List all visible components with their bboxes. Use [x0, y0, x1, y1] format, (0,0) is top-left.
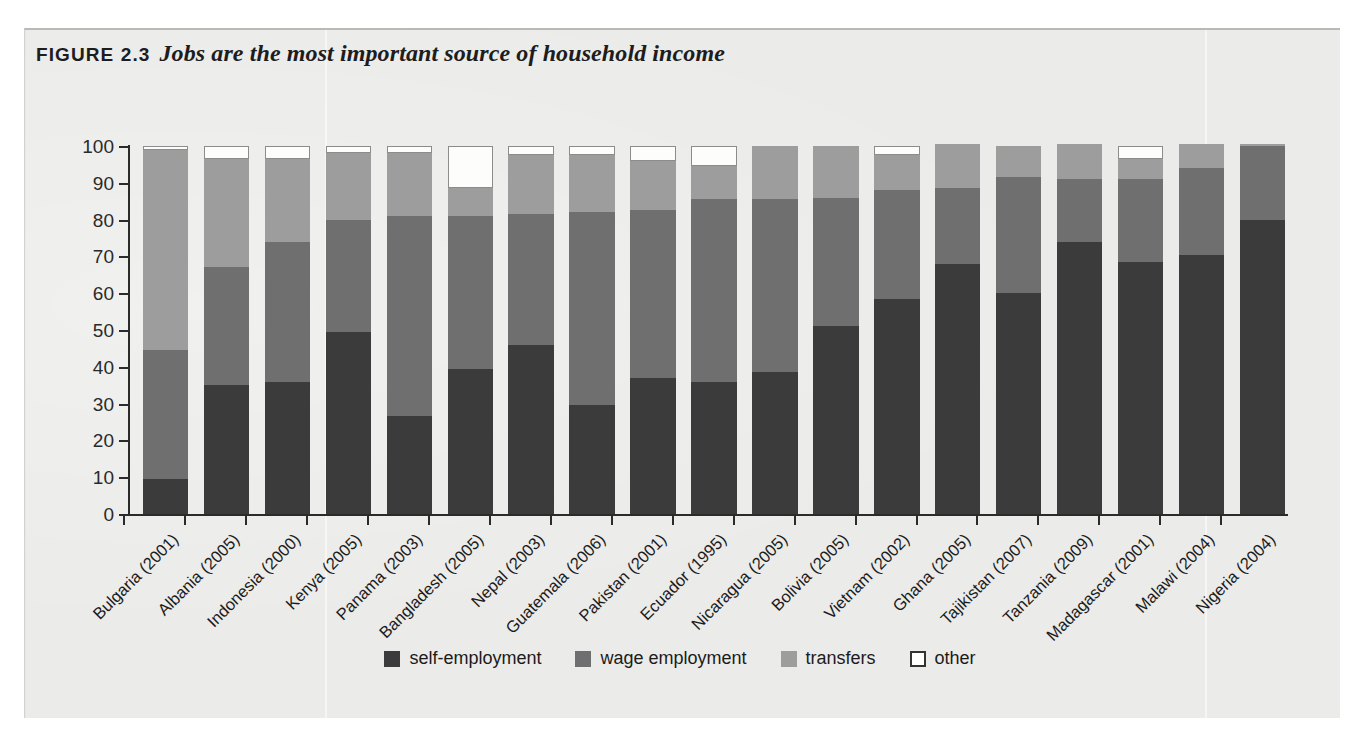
- x-tick-6: [489, 516, 491, 525]
- y-tick-label-0: 0: [103, 504, 114, 526]
- bar-segment-transfer: [813, 146, 858, 198]
- bar-segment-wage: [1179, 168, 1224, 254]
- bar-segment-transfer: [630, 161, 675, 211]
- x-tick-10: [733, 516, 735, 525]
- legend-item-other[interactable]: other: [910, 648, 976, 669]
- bar-segment-other: [630, 146, 675, 161]
- bar-segment-transfer: [1240, 144, 1285, 146]
- bar-segment-other: [569, 146, 614, 155]
- x-tick-13: [916, 516, 918, 525]
- bar-segment-transfer: [1118, 159, 1163, 179]
- bar-segment-transfer: [265, 159, 310, 242]
- x-tick-4: [367, 516, 369, 525]
- y-tick-label-40: 40: [93, 357, 114, 379]
- y-tick-70: 70: [119, 256, 128, 258]
- bar-segment-other: [1118, 146, 1163, 159]
- bar-segment-transfer: [448, 188, 493, 216]
- bar-segment-wage: [691, 199, 736, 381]
- bar-segment-wage: [387, 216, 432, 417]
- chart-legend: self-employmentwage employmenttransferso…: [0, 648, 1360, 669]
- legend-item-self[interactable]: self-employment: [384, 648, 541, 669]
- legend-item-label: other: [935, 648, 976, 669]
- bar-segment-wage: [448, 216, 493, 369]
- bar-segment-other: [387, 146, 432, 153]
- square-swatch-icon: [575, 651, 591, 667]
- bar-guatemala[interactable]: [569, 146, 614, 514]
- bar-segment-transfer: [996, 146, 1041, 177]
- bar-segment-other: [204, 146, 249, 159]
- y-axis-line: [128, 145, 130, 515]
- figure-page: FIGURE 2.3Jobs are the most important so…: [0, 0, 1360, 742]
- bar-segment-other: [448, 146, 493, 188]
- bar-segment-transfer: [1179, 144, 1224, 168]
- y-tick-label-50: 50: [93, 320, 114, 342]
- x-tick-2: [245, 516, 247, 525]
- bar-segment-wage: [143, 350, 188, 479]
- x-tick-1: [184, 516, 186, 525]
- bar-segment-wage: [326, 220, 371, 332]
- legend-item-label: wage employment: [600, 648, 746, 669]
- bar-segment-wage: [874, 190, 919, 299]
- x-tick-11: [794, 516, 796, 525]
- x-tick-14: [976, 516, 978, 525]
- bar-segment-wage: [813, 198, 858, 327]
- bar-segment-self: [143, 479, 188, 514]
- y-tick-label-20: 20: [93, 430, 114, 452]
- x-tick-16: [1098, 516, 1100, 525]
- bar-segment-wage: [265, 242, 310, 382]
- x-tick-18: [1220, 516, 1222, 525]
- y-tick-label-10: 10: [93, 467, 114, 489]
- bar-segment-transfer: [508, 155, 553, 214]
- bar-segment-other: [143, 146, 188, 150]
- y-tick-label-30: 30: [93, 394, 114, 416]
- bar-segment-wage: [630, 210, 675, 377]
- y-tick-label-90: 90: [93, 173, 114, 195]
- y-tick-40: 40: [119, 367, 128, 369]
- y-tick-90: 90: [119, 183, 128, 185]
- figure-title-text: Jobs are the most important source of ho…: [159, 40, 724, 66]
- bar-segment-transfer: [569, 155, 614, 212]
- square-swatch-icon: [781, 651, 797, 667]
- bar-segment-wage: [935, 188, 980, 263]
- bar-segment-wage: [752, 199, 797, 372]
- bar-segment-transfer: [204, 159, 249, 268]
- x-tick-9: [672, 516, 674, 525]
- bar-segment-other: [874, 146, 919, 155]
- bar-segment-transfer: [874, 155, 919, 190]
- bar-segment-wage: [996, 177, 1041, 293]
- bar-segment-transfer: [691, 166, 736, 199]
- chart-plot-area: percentage of household income 010203040…: [128, 146, 1286, 514]
- figure-number: FIGURE 2.3: [36, 44, 150, 65]
- bar-segment-transfer: [752, 146, 797, 199]
- legend-item-label: transfers: [806, 648, 876, 669]
- y-tick-60: 60: [119, 293, 128, 295]
- square-outline-swatch-icon: [910, 651, 926, 667]
- legend-item-label: self-employment: [409, 648, 541, 669]
- y-tick-label-100: 100: [82, 136, 114, 158]
- bar-segment-wage: [1240, 146, 1285, 220]
- x-tick-8: [611, 516, 613, 525]
- x-tick-15: [1037, 516, 1039, 525]
- x-tick-12: [855, 516, 857, 525]
- x-tick-5: [428, 516, 430, 525]
- bar-segment-other: [691, 146, 736, 166]
- y-tick-50: 50: [119, 330, 128, 332]
- x-tick-17: [1159, 516, 1161, 525]
- y-tick-label-80: 80: [93, 210, 114, 232]
- legend-item-wage[interactable]: wage employment: [575, 648, 746, 669]
- bar-segment-transfer: [326, 153, 371, 219]
- bar-segment-other: [326, 146, 371, 153]
- bar-segment-other: [508, 146, 553, 155]
- bar-segment-wage: [569, 212, 614, 405]
- figure-title: FIGURE 2.3Jobs are the most important so…: [36, 40, 725, 67]
- bar-segment-wage: [1057, 179, 1102, 242]
- square-swatch-icon: [384, 651, 400, 667]
- bar-segment-other: [265, 146, 310, 159]
- x-tick-0: [123, 516, 125, 525]
- legend-item-transfers[interactable]: transfers: [781, 648, 876, 669]
- x-tick-3: [306, 516, 308, 525]
- y-tick-label-60: 60: [93, 283, 114, 305]
- bar-segment-transfer: [1057, 144, 1102, 179]
- bar-segment-transfer: [387, 153, 432, 216]
- bar-bulgaria[interactable]: [143, 146, 188, 514]
